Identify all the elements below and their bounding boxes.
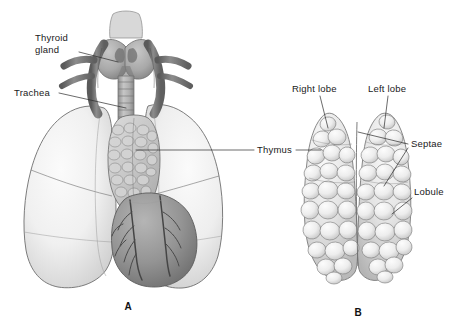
label-right-lobe: Right lobe bbox=[292, 83, 337, 94]
anatomy-figure: A bbox=[0, 0, 459, 332]
panel-b-letter: B bbox=[354, 307, 361, 318]
label-trachea: Trachea bbox=[14, 87, 50, 98]
label-thymus: Thymus bbox=[257, 144, 292, 155]
label-left-lobe: Left lobe bbox=[368, 83, 406, 94]
figure-canvas: A bbox=[0, 0, 459, 332]
label-thyroid-gland-line1: Thyroid bbox=[35, 32, 68, 43]
panel-a-letter: A bbox=[124, 301, 131, 312]
heart-shape bbox=[112, 193, 197, 287]
label-thyroid-gland-line2: gland bbox=[35, 44, 59, 55]
label-lobule: Lobule bbox=[414, 186, 444, 197]
label-septae: Septae bbox=[411, 138, 442, 149]
